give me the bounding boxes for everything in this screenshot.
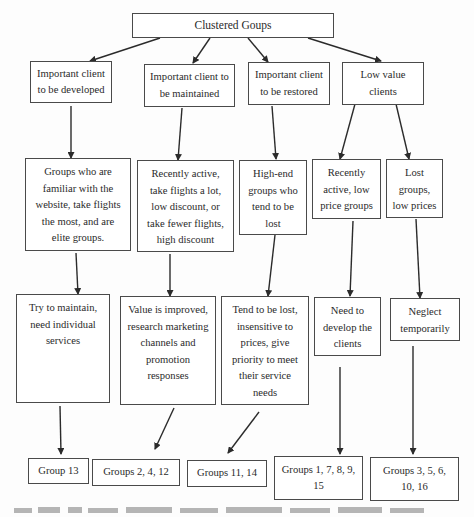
group-node-3: Groups 11, 14 xyxy=(187,460,267,487)
strategy-node-1: Try to maintain, need individual service… xyxy=(16,294,110,403)
description-label: Groups who are familiar with the website… xyxy=(35,164,120,247)
category-node-low-value: Low value clients xyxy=(342,62,424,105)
strategy-node-4: Need to develop the clients xyxy=(314,297,381,356)
strategy-node-5: Neglect temporarily xyxy=(390,298,460,341)
strategy-label: Try to maintain, need individual service… xyxy=(29,300,97,350)
category-node-maintained: Important client to be maintained xyxy=(144,64,235,107)
description-node-4: Recently active, low price groups xyxy=(312,159,381,219)
group-node-2: Groups 2, 4, 12 xyxy=(92,459,180,486)
group-label: Groups 3, 5, 6, 10, 16 xyxy=(383,463,446,496)
strategy-label: Tend to be lost, insensitive to prices, … xyxy=(232,302,298,401)
strategy-node-3: Tend to be lost, insensitive to prices, … xyxy=(221,296,309,405)
group-label: Groups 1, 7, 8, 9, 15 xyxy=(282,462,356,495)
description-node-3: High-end groups who tend to be lost xyxy=(239,160,307,235)
description-node-5: Lost groups, low prices xyxy=(386,159,443,218)
description-label: Lost groups, low prices xyxy=(393,165,437,215)
cluster-diagram: Clustered Goups Important client to be d… xyxy=(0,0,474,517)
group-node-5: Groups 3, 5, 6, 10, 16 xyxy=(370,457,459,501)
group-node-1: Group 13 xyxy=(28,458,89,484)
category-label: Important client to be restored xyxy=(255,67,323,100)
root-node: Clustered Goups xyxy=(132,13,334,38)
category-label: Low value clients xyxy=(360,67,405,100)
group-label: Groups 2, 4, 12 xyxy=(103,464,169,481)
root-label: Clustered Goups xyxy=(195,17,272,34)
strategy-label: Need to develop the clients xyxy=(323,303,372,353)
description-label: Recently active, low price groups xyxy=(320,165,373,215)
category-label: Important client to be maintained xyxy=(150,69,229,102)
figure-caption-faded xyxy=(14,505,464,515)
strategy-node-2: Value is improved, research marketing ch… xyxy=(120,296,216,405)
description-node-2: Recently active, take flights a lot, low… xyxy=(137,160,234,252)
description-label: High-end groups who tend to be lost xyxy=(248,166,298,232)
strategy-label: Neglect temporarily xyxy=(400,304,449,337)
group-label: Group 13 xyxy=(38,463,78,480)
category-node-developed: Important client to be developed xyxy=(30,61,112,103)
description-node-1: Groups who are familiar with the website… xyxy=(25,158,131,251)
strategy-label: Value is improved, research marketing ch… xyxy=(128,302,209,385)
group-label: Groups 11, 14 xyxy=(197,465,257,482)
description-label: Recently active, take flights a lot, low… xyxy=(147,166,224,249)
category-label: Important client to be developed xyxy=(37,66,105,99)
category-node-restored: Important client to be restored xyxy=(248,62,330,105)
group-node-4: Groups 1, 7, 8, 9, 15 xyxy=(274,456,363,500)
